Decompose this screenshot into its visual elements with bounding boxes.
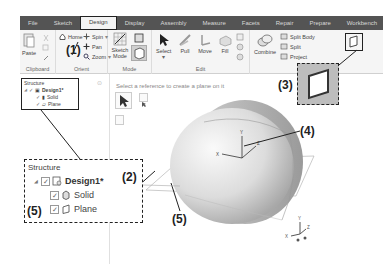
plane-callout <box>297 63 339 105</box>
annotation-2: (2) <box>122 170 137 184</box>
structure-tree-enlarged: Structure ◢ ✓ Design1* ✓ Solid ✓ Plane <box>24 159 143 223</box>
solid-body-icon <box>61 190 71 200</box>
sphere-body <box>170 108 294 224</box>
leader-3 <box>339 50 357 65</box>
svg-text:Y: Y <box>240 130 243 135</box>
annotation-3: (3) <box>278 78 293 92</box>
leader-struct <box>41 110 80 159</box>
scene-overlay: Y X Z Y X Z <box>0 0 383 264</box>
expand-icon[interactable]: ◢ <box>34 178 38 184</box>
tree-item-solid[interactable]: ✓ Solid <box>28 188 139 202</box>
checkbox-icon[interactable]: ✓ <box>41 177 50 186</box>
svg-text:Z: Z <box>307 225 310 230</box>
checkbox-icon[interactable]: ✓ <box>50 205 59 214</box>
design-icon <box>52 176 62 186</box>
annotation-4: (4) <box>300 124 315 138</box>
svg-text:Y: Y <box>298 216 301 221</box>
tree-item-plane[interactable]: ✓ Plane <box>28 202 139 216</box>
screenshot-stage: File Sketch Design Display Assembly Meas… <box>0 0 383 264</box>
annotation-5-tree: (5) <box>27 204 42 218</box>
plane-icon <box>61 204 71 214</box>
svg-text:X: X <box>216 152 219 157</box>
svg-text:X: X <box>285 234 288 239</box>
annotation-5-viewport: (5) <box>172 212 187 226</box>
world-axes-triad: Y X Z <box>285 216 310 242</box>
checkbox-icon[interactable]: ✓ <box>50 191 59 200</box>
plane-icon-large <box>298 64 338 104</box>
annotation-1: (1) <box>66 43 81 57</box>
